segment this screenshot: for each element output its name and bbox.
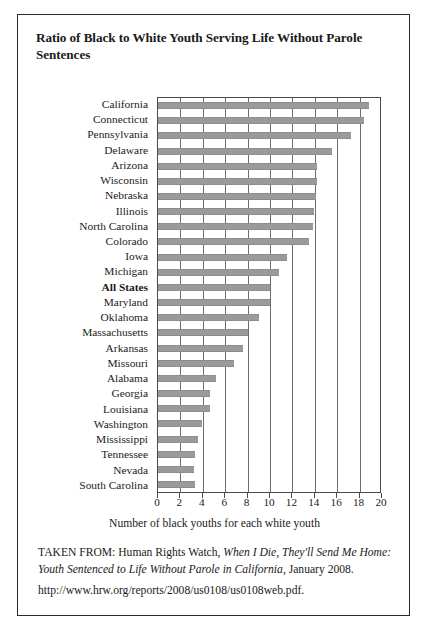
attribution-trailing: , January 2008. [283,563,354,576]
y-axis-label: South Carolina [20,478,152,493]
bar-row [158,143,380,158]
y-axis-label: Missouri [20,356,152,371]
bar-row [158,462,380,477]
bar-row [158,174,380,189]
y-axis-label: Illinois [20,204,152,219]
y-axis-label: All States [20,280,152,295]
y-axis-label: Connecticut [20,112,152,127]
chart-title: Ratio of Black to White Youth Serving Li… [36,29,388,64]
bar [158,269,279,276]
x-tick-label: 6 [221,497,227,508]
bar-row [158,234,380,249]
bar [158,375,216,382]
bar [158,238,309,245]
bar-row [158,204,380,219]
bar-row [158,280,380,295]
bar [158,223,313,230]
bar [158,436,198,443]
bar-row [158,159,380,174]
y-axis-label: Iowa [20,249,152,264]
bar-row [158,477,380,492]
y-axis-label: California [20,97,152,112]
y-axis-label: Georgia [20,386,152,401]
bar-series [158,98,380,492]
y-axis-label: Nebraska [20,188,152,203]
bar-row [158,386,380,401]
bar [158,284,270,291]
bar-row [158,341,380,356]
y-axis-label: Wisconsin [20,173,152,188]
x-tick-label: 14 [308,497,319,508]
x-tick-label: 4 [199,497,205,508]
y-axis-label: Oklahoma [20,310,152,325]
bar [158,405,210,412]
y-axis-label: Arizona [20,158,152,173]
bar [158,148,332,155]
bar [158,299,270,306]
x-tick-label: 0 [154,497,160,508]
bar-row [158,265,380,280]
y-axis-label: Mississippi [20,432,152,447]
y-axis-label: Massachusetts [20,326,152,341]
bar [158,254,287,261]
bar [158,132,351,139]
bar-row [158,371,380,386]
bar [158,193,316,200]
bar [158,163,317,170]
y-axis-label: Washington [20,417,152,432]
bar-row [158,447,380,462]
y-axis-label: Alabama [20,371,152,386]
x-axis-tick-labels: 02468101214161820 [157,497,381,513]
x-axis-title: Number of black youths for each white yo… [18,517,411,530]
bar [158,117,364,124]
x-tick-label: 18 [353,497,364,508]
source-url: http://www.hrw.org/reports/2008/us0108/u… [38,583,394,600]
bar-row [158,113,380,128]
bar-row [158,219,380,234]
x-tick-label: 10 [263,497,274,508]
bar-row [158,295,380,310]
y-axis-label: Colorado [20,234,152,249]
plot-area [157,97,381,493]
bar-row [158,250,380,265]
y-axis-label: Delaware [20,143,152,158]
bar [158,345,243,352]
attribution-lead: TAKEN FROM: Human Rights Watch, [38,546,223,559]
bar-row [158,401,380,416]
y-axis-label: Nevada [20,463,152,478]
bar [158,451,195,458]
bar [158,314,259,321]
bar-row [158,325,380,340]
bar [158,390,210,397]
y-axis-label: Michigan [20,265,152,280]
x-tick-label: 8 [244,497,250,508]
bar [158,481,195,488]
attribution-block: TAKEN FROM: Human Rights Watch, When I D… [38,545,394,600]
bar-row [158,128,380,143]
x-tick-label: 16 [331,497,342,508]
x-tick-label: 12 [286,497,297,508]
bar-row [158,356,380,371]
y-axis-category-labels: CaliforniaConnecticutPennsylvaniaDelawar… [20,97,152,493]
bar [158,466,194,473]
y-axis-label: Pennsylvania [20,127,152,142]
bar [158,420,202,427]
bar-row [158,98,380,113]
bar [158,178,317,185]
y-axis-label: Tennessee [20,447,152,462]
y-axis-label: Arkansas [20,341,152,356]
y-axis-label: Louisiana [20,402,152,417]
figure-card: Ratio of Black to White Youth Serving Li… [17,14,410,616]
bar [158,329,248,336]
bar [158,102,369,109]
x-tick-label: 2 [177,497,183,508]
x-tick-label: 20 [375,497,386,508]
bar-row [158,416,380,431]
y-axis-label: Maryland [20,295,152,310]
bar-row [158,189,380,204]
bar [158,360,234,367]
bar-row [158,431,380,446]
bar-row [158,310,380,325]
y-axis-label: North Carolina [20,219,152,234]
chart-plot-region: CaliforniaConnecticutPennsylvaniaDelawar… [18,89,411,509]
